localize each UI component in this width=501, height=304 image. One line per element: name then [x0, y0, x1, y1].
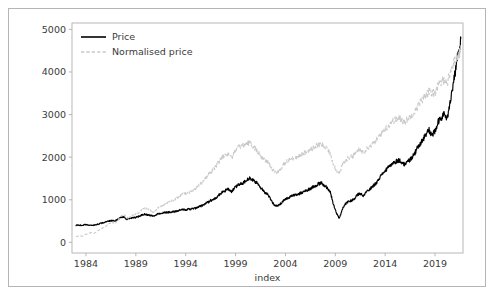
- data-series-area: [76, 37, 461, 237]
- x-tick-label: 1999: [223, 258, 247, 269]
- x-tick-label: 1994: [174, 258, 198, 269]
- chart-plot: PriceNormalised price 010002000300040005…: [9, 9, 487, 288]
- x-axis-title: index: [255, 272, 281, 283]
- series-line-normalised-price: [76, 46, 461, 237]
- x-tick-label: 2019: [423, 258, 447, 269]
- axes-area: [69, 23, 463, 256]
- y-tick-label: 4000: [42, 66, 66, 77]
- chart-legend: PriceNormalised price: [81, 31, 193, 57]
- x-tick-label: 2009: [323, 258, 347, 269]
- legend-label-2: Normalised price: [112, 46, 193, 57]
- x-tick-label: 1984: [74, 258, 98, 269]
- x-tick-label: 2014: [373, 258, 397, 269]
- x-tick-label: 1989: [124, 258, 148, 269]
- x-tick-label: 2004: [273, 258, 297, 269]
- series-line-price: [76, 37, 461, 226]
- y-tick-label: 5000: [42, 24, 66, 35]
- legend-label-1: Price: [112, 31, 135, 42]
- figure-canvas: PriceNormalised price 010002000300040005…: [8, 8, 486, 287]
- axis-labels-area: 0100020003000400050001984198919941999200…: [42, 24, 447, 283]
- y-tick-label: 3000: [42, 109, 66, 120]
- y-tick-label: 1000: [42, 194, 66, 205]
- y-tick-label: 2000: [42, 152, 66, 163]
- y-tick-label: 0: [60, 237, 66, 248]
